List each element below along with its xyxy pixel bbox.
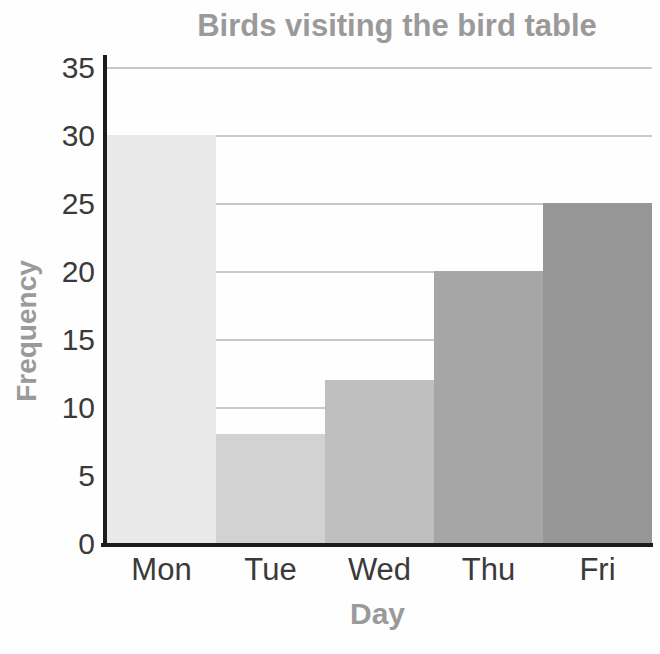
gridline-y35 (105, 67, 652, 69)
bar-tue (216, 434, 325, 543)
x-tick-label-mon: Mon (107, 553, 216, 587)
y-tick-label-10: 10 (0, 392, 95, 424)
y-tick-label-25: 25 (0, 188, 95, 220)
y-axis-line (103, 55, 107, 547)
y-tick-label-15: 15 (0, 324, 95, 356)
y-tick-label-20: 20 (0, 256, 95, 288)
x-axis-line (101, 543, 653, 547)
x-tick-label-thu: Thu (434, 553, 543, 587)
bar-fri (543, 203, 652, 543)
bar-thu (434, 271, 543, 543)
y-tick-label-30: 30 (0, 120, 95, 152)
bar-wed (325, 380, 434, 543)
x-tick-label-wed: Wed (325, 553, 434, 587)
x-tick-label-tue: Tue (216, 553, 325, 587)
y-tick-label-5: 5 (0, 460, 95, 492)
y-tick-label-0: 0 (0, 528, 95, 560)
y-tick-label-35: 35 (0, 52, 95, 84)
bar-mon (107, 135, 216, 543)
bar-chart-figure: Birds visiting the bird table Frequency … (0, 0, 660, 654)
x-axis-title: Day (103, 597, 652, 631)
x-tick-label-fri: Fri (543, 553, 652, 587)
plot-area: 05101520253035MonTueWedThuFri (0, 0, 660, 654)
